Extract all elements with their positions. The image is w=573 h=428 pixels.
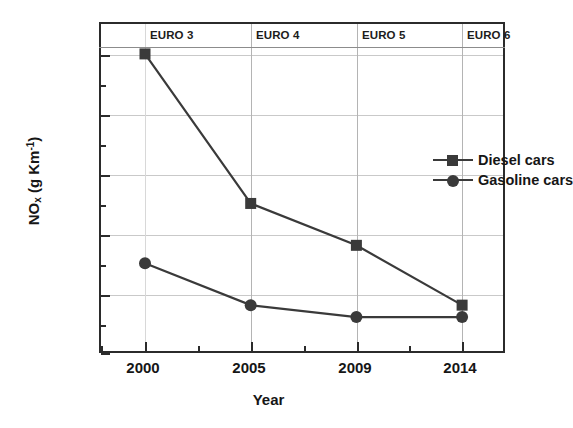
legend: Diesel cars Gasoline cars <box>433 150 573 190</box>
legend-sample-gasoline <box>433 172 473 188</box>
xtick-label-2000: 2000 <box>126 359 159 376</box>
data-point-gasoline-cars-2014[interactable] <box>456 311 468 323</box>
euro-zone-5-label: EURO 5 <box>362 29 405 41</box>
euro-zone-4-label: EURO 4 <box>256 29 299 41</box>
series-line-diesel-cars <box>145 54 462 305</box>
legend-entry-diesel[interactable]: Diesel cars <box>433 150 573 170</box>
y-axis-title: NOx (g Km-1) <box>25 81 43 281</box>
data-point-diesel-cars-2005[interactable] <box>245 198 256 209</box>
y-axis-title-sup: -1 <box>25 142 36 151</box>
square-marker-icon <box>447 155 458 166</box>
euro-zone-6-label: EURO 6 <box>467 29 510 41</box>
euro-zone-band: EURO 3 EURO 4 EURO 5 EURO 6 <box>99 22 505 48</box>
data-point-diesel-cars-2014[interactable] <box>457 300 468 311</box>
x-axis-title: Year <box>0 391 537 408</box>
euro-zone-4: EURO 4 <box>249 22 355 48</box>
data-point-gasoline-cars-2009[interactable] <box>350 311 362 323</box>
xtick-label-2014: 2014 <box>443 359 476 376</box>
euro-zone-3-label: EURO 3 <box>150 29 193 41</box>
euro-zone-5: EURO 5 <box>355 22 460 48</box>
y-axis-title-tail: ) <box>25 137 42 142</box>
y-axis-title-base: NO <box>25 203 42 226</box>
plot-area: Diesel cars Gasoline cars <box>99 22 505 353</box>
y-axis-title-sub: x <box>32 197 43 203</box>
legend-label-gasoline: Gasoline cars <box>478 172 573 188</box>
y-axis-title-mid: (g Km <box>25 151 42 198</box>
data-point-diesel-cars-2000[interactable] <box>140 48 151 59</box>
legend-entry-gasoline[interactable]: Gasoline cars <box>433 170 573 190</box>
xtick-label-2009: 2009 <box>338 359 371 376</box>
series-line-gasoline-cars <box>145 263 462 317</box>
legend-label-diesel: Diesel cars <box>478 152 555 168</box>
data-point-gasoline-cars-2005[interactable] <box>245 299 257 311</box>
euro-zone-6: EURO 6 <box>460 22 505 48</box>
legend-sample-diesel <box>433 152 473 168</box>
data-point-gasoline-cars-2000[interactable] <box>139 257 151 269</box>
euro-zone-3: EURO 3 <box>143 22 249 48</box>
xtick-label-2005: 2005 <box>232 359 265 376</box>
data-point-diesel-cars-2009[interactable] <box>351 240 362 251</box>
circle-marker-icon <box>447 175 459 187</box>
